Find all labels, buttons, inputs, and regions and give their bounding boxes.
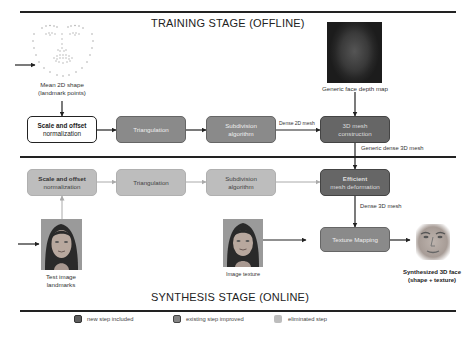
generic-dense-3d-mesh-label: Generic dense 3D mesh	[361, 145, 424, 151]
mean-shape-caption: Mean 2D shape (landmark points)	[32, 81, 92, 97]
legend-label-eliminated-step: eliminated step	[288, 316, 327, 322]
dense-3d-mesh-label: Dense 3D mesh	[360, 203, 402, 209]
synthesized-face-image	[413, 222, 453, 262]
legend-swatch-new-step	[74, 315, 82, 323]
legend-swatch-improved-step	[173, 315, 181, 323]
synth-scale-offset-normalization: Scale and offset normalization	[27, 169, 97, 196]
test-image-photo	[41, 219, 82, 270]
train-subdivision-algorithm: Subdivision algorithm	[206, 116, 276, 143]
synth-subdivision-algorithm: Subdivision algorithm	[206, 169, 276, 196]
dense-2d-mesh-label: Dense 2D mesh	[279, 120, 315, 126]
depth-map-image	[327, 22, 382, 83]
synth-triangulation: Triangulation	[116, 169, 186, 196]
image-texture-caption: Image texture	[213, 270, 273, 278]
train-3d-mesh-construction: 3D mesh construction	[320, 116, 390, 143]
synthesized-face-caption: Synthesized 3D face (shape + texture)	[399, 268, 465, 284]
test-image-caption: Test image landmarks	[31, 273, 91, 289]
synth-efficient-mesh-deformation: Efficient mesh deformation	[320, 169, 390, 196]
legend-label-new-step: new step included	[87, 316, 133, 322]
train-triangulation: Triangulation	[116, 116, 186, 143]
depth-map-caption: Generic face depth map	[315, 85, 395, 93]
train-scale-offset-normalization: Scale and offset normalization	[27, 116, 97, 143]
legend-swatch-eliminated-step	[274, 315, 282, 323]
synth-texture-mapping: Texture Mapping	[320, 227, 390, 252]
image-texture-photo	[223, 219, 263, 267]
landmark-points-icon	[30, 22, 96, 80]
legend-label-improved-step: existing step improved	[186, 316, 244, 322]
